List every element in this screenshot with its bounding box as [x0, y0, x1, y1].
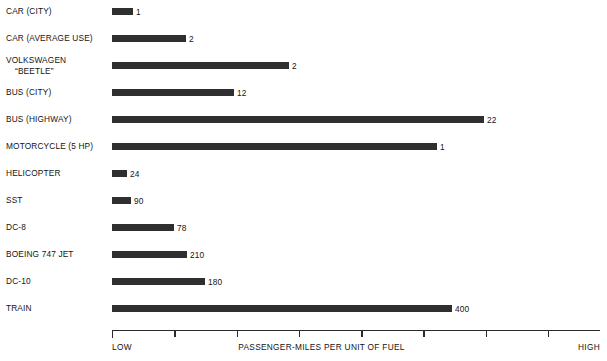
- bar-value-label: 1: [136, 7, 141, 17]
- row-category-label-line1: TRAIN: [6, 303, 110, 314]
- axis-tick: [237, 330, 238, 337]
- row-bar-group: 1: [112, 0, 141, 25]
- row-category-label-line2: “BEETLE”: [6, 66, 110, 76]
- row-bar-group: 90: [112, 187, 143, 214]
- row-bar-group: 1: [112, 133, 445, 160]
- row-category-label-line1: VOLKSWAGEN: [6, 55, 110, 65]
- bar-value-label: 400: [455, 304, 469, 314]
- bar-value-label: 12: [237, 88, 246, 98]
- row-category-label-line1: BUS (HIGHWAY): [6, 114, 110, 125]
- chart-row: DC-10180: [0, 268, 607, 295]
- axis-tick: [548, 330, 549, 337]
- bar-value-label: 24: [130, 169, 139, 179]
- row-category-label: VOLKSWAGEN“BEETLE”: [6, 52, 110, 79]
- axis-label-high: HIGH: [578, 342, 600, 352]
- bar-value-label: 78: [177, 223, 186, 233]
- chart-row: HELICOPTER24: [0, 160, 607, 187]
- bar-value-label: 180: [208, 277, 222, 287]
- chart-row: BUS (HIGHWAY)22: [0, 106, 607, 133]
- bar: [112, 197, 131, 204]
- axis-tick: [423, 330, 424, 337]
- row-category-label: DC-8: [6, 214, 110, 241]
- axis-line: [112, 330, 600, 331]
- row-bar-group: 78: [112, 214, 186, 241]
- bar-value-label: 90: [134, 196, 143, 206]
- bar: [112, 35, 186, 42]
- axis-tick: [299, 330, 300, 337]
- row-bar-group: 2: [112, 25, 194, 52]
- chart-row: BUS (CITY)12: [0, 79, 607, 106]
- chart-row: VOLKSWAGEN“BEETLE”2: [0, 52, 607, 79]
- bar: [112, 278, 205, 285]
- row-category-label: BOEING 747 JET: [6, 241, 110, 268]
- chart-x-axis: LOW PASSENGER-MILES PER UNIT OF FUEL HIG…: [0, 330, 607, 361]
- row-category-label-line1: CAR (AVERAGE USE): [6, 33, 110, 44]
- row-bar-group: 12: [112, 79, 246, 106]
- row-category-label-line1: CAR (CITY): [6, 6, 110, 17]
- row-bar-group: 400: [112, 295, 469, 322]
- bar-value-label: 22: [487, 115, 496, 125]
- bar: [112, 8, 133, 15]
- axis-tick: [174, 330, 175, 337]
- row-bar-group: 2: [112, 52, 297, 79]
- row-category-label: CAR (CITY): [6, 0, 110, 25]
- bar: [112, 305, 452, 312]
- bar: [112, 251, 187, 258]
- row-category-label-line1: BOEING 747 JET: [6, 249, 110, 260]
- bar-value-label: 2: [292, 61, 297, 71]
- row-category-label: SST: [6, 187, 110, 214]
- row-category-label: DC-10: [6, 268, 110, 295]
- fuel-efficiency-bar-chart: CAR (CITY)1CAR (AVERAGE USE)2VOLKSWAGEN“…: [0, 0, 607, 361]
- row-category-label: MOTORCYCLE (5 HP): [6, 133, 110, 160]
- row-category-label-line1: HELICOPTER: [6, 168, 110, 179]
- bar: [112, 116, 484, 123]
- bar-value-label: 1: [440, 142, 445, 152]
- chart-row: TRAIN400: [0, 295, 607, 322]
- row-category-label-line1: SST: [6, 195, 110, 206]
- chart-row: SST90: [0, 187, 607, 214]
- row-category-label: BUS (HIGHWAY): [6, 106, 110, 133]
- row-category-label-line1: DC-8: [6, 222, 110, 233]
- chart-row: CAR (AVERAGE USE)2: [0, 25, 607, 52]
- bar: [112, 143, 437, 150]
- row-category-label-line1: MOTORCYCLE (5 HP): [6, 141, 110, 152]
- axis-tick: [112, 330, 113, 338]
- chart-row: CAR (CITY)1: [0, 0, 607, 25]
- row-bar-group: 22: [112, 106, 496, 133]
- row-bar-group: 180: [112, 268, 222, 295]
- axis-title: PASSENGER-MILES PER UNIT OF FUEL: [238, 342, 405, 352]
- row-category-label-line1: DC-10: [6, 276, 110, 287]
- axis-label-low: LOW: [112, 342, 132, 352]
- bar-value-label: 210: [190, 250, 204, 260]
- row-category-label: CAR (AVERAGE USE): [6, 25, 110, 52]
- chart-row: DC-878: [0, 214, 607, 241]
- row-category-label-line1: BUS (CITY): [6, 87, 110, 98]
- row-bar-group: 210: [112, 241, 204, 268]
- axis-tick: [486, 330, 487, 337]
- chart-row: MOTORCYCLE (5 HP)1: [0, 133, 607, 160]
- row-category-label: TRAIN: [6, 295, 110, 322]
- row-category-label: BUS (CITY): [6, 79, 110, 106]
- bar: [112, 62, 289, 69]
- bar: [112, 170, 127, 177]
- row-category-label: HELICOPTER: [6, 160, 110, 187]
- chart-row: BOEING 747 JET210: [0, 241, 607, 268]
- axis-tick: [361, 330, 362, 337]
- bar: [112, 89, 234, 96]
- row-bar-group: 24: [112, 160, 139, 187]
- bar-value-label: 2: [189, 34, 194, 44]
- bar: [112, 224, 174, 231]
